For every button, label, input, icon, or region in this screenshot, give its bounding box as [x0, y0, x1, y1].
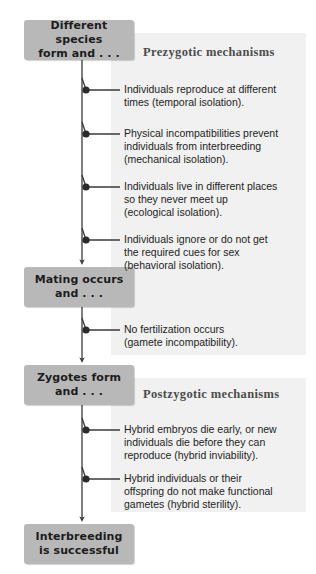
section-heading-postzygotic: Postzygotic mechanisms: [143, 387, 280, 402]
stage-box-label: Zygotes form and . . .: [33, 371, 125, 399]
stage-box-label: Mating occurs and . . .: [31, 273, 128, 301]
branch-item-hybrid-sterility: Hybrid individuals or their offspring do…: [124, 472, 302, 512]
branch-item-hybrid-inviability: Hybrid embryos die early, or new individ…: [124, 423, 302, 463]
stage-box-zygotes-form[interactable]: Zygotes form and . . .: [24, 365, 134, 405]
stage-box-interbreeding[interactable]: Interbreeding is successful: [24, 524, 134, 564]
reproductive-isolation-flow-diagram: Prezygotic mechanisms Postzygotic mechan…: [0, 0, 316, 574]
branch-item-behavioral-isolation: Individuals ignore or do not get the req…: [124, 233, 302, 273]
stage-box-mating-occurs[interactable]: Mating occurs and . . .: [24, 267, 134, 307]
branch-item-mechanical-isolation: Physical incompatibilities prevent indiv…: [124, 127, 302, 167]
stage-box-label: Interbreeding is successful: [32, 530, 127, 558]
branch-item-gamete-incompatibility: No fertilization occurs (gamete incompat…: [124, 323, 302, 349]
section-heading-prezygotic: Prezygotic mechanisms: [143, 45, 275, 60]
stage-box-label: Different species form and . . .: [24, 19, 134, 61]
branch-item-ecological-isolation: Individuals live in different places so …: [124, 180, 302, 220]
branch-item-temporal-isolation: Individuals reproduce at different times…: [124, 83, 302, 109]
stage-box-different-species[interactable]: Different species form and . . .: [24, 20, 134, 60]
